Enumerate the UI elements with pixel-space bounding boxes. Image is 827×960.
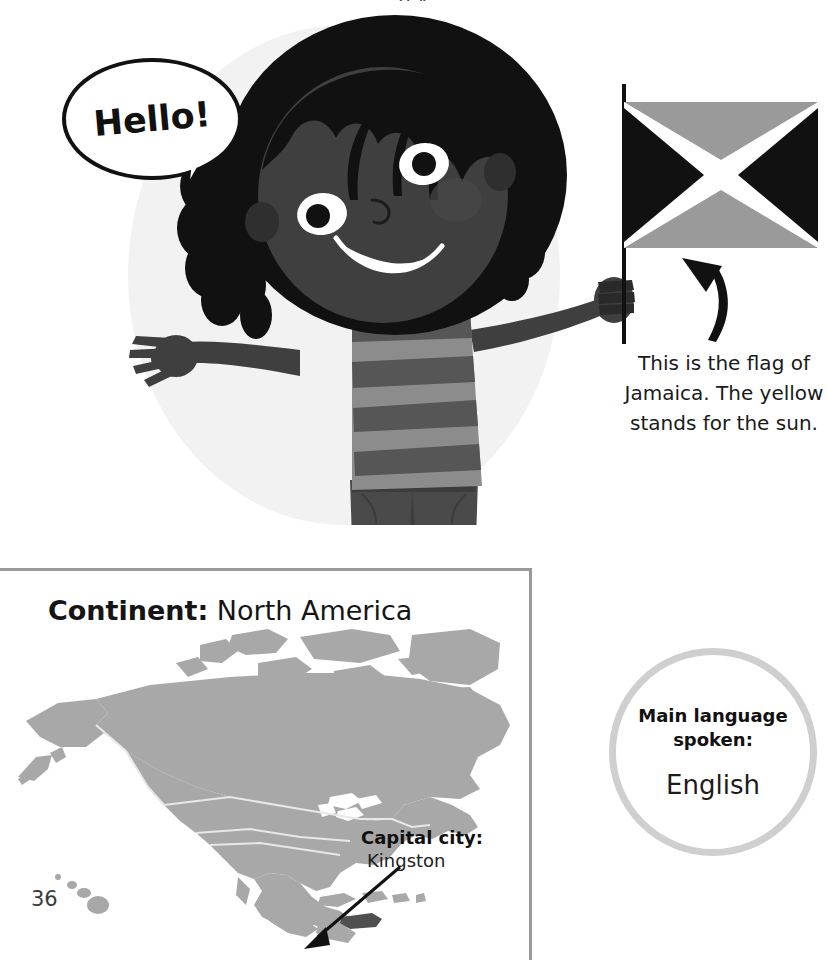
flag-graphic: [624, 102, 818, 248]
curved-up-arrow-icon: [668, 252, 752, 342]
main-language-label: Main language spoken:: [628, 704, 798, 752]
continent-label: Continent:: [48, 595, 208, 626]
continent-heading: Continent: North America: [48, 595, 412, 626]
main-language-circle: Main language spoken: English: [609, 648, 817, 856]
speech-bubble: Hello!: [62, 58, 242, 180]
speech-bubble-text: Hello!: [57, 50, 247, 187]
hawaii-islands: [55, 874, 109, 914]
continent-value: North America: [217, 595, 412, 626]
main-language-value: English: [666, 770, 760, 800]
continent-panel: Continent: North America: [0, 568, 532, 960]
main-language-label-line2: spoken:: [673, 729, 753, 750]
illustration-area: Hello! This is the flag of Jamaica. The …: [0, 0, 827, 568]
capital-city-pointer-arrow-icon: [296, 863, 404, 953]
book-page: g y: [0, 0, 827, 960]
page-number: 36: [31, 887, 58, 911]
flag-cloth: [624, 102, 818, 248]
flag-caption: This is the flag of Jamaica. The yellow …: [624, 348, 824, 438]
north-america-map: [0, 629, 532, 960]
main-language-label-line1: Main language: [638, 705, 787, 726]
jamaica-flag: [610, 84, 820, 259]
capital-city-label: Capital city:: [361, 827, 532, 849]
